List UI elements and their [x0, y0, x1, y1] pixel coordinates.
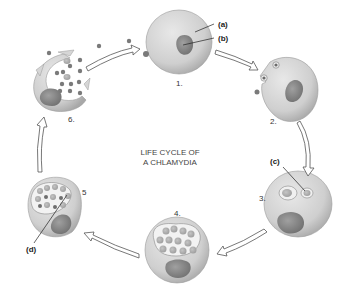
stage-1-cell: 1. — [143, 10, 212, 88]
elementary-body — [274, 63, 277, 66]
stage-label-5: 5 — [82, 188, 87, 197]
stage-label-1: 1. — [176, 79, 183, 88]
arrow-5-to-6 — [37, 117, 47, 172]
callout-a: (a) — [218, 20, 228, 29]
callout-c: (c) — [270, 157, 280, 166]
callout-d: (d) — [26, 245, 37, 254]
stage-4-cell: 4. — [145, 209, 209, 283]
diagram-title-line-2: A CHLAMYDIA — [143, 158, 197, 167]
diagram-title-line-1: LIFE CYCLE OF — [140, 148, 199, 157]
arrow-4-to-5 — [84, 232, 139, 258]
stage-5-cell: 5 — [28, 177, 87, 237]
stage-label-6: 6. — [68, 115, 75, 124]
callout-b: (b) — [218, 34, 229, 43]
stage-label-4: 4. — [174, 209, 181, 218]
arrow-3-to-4 — [217, 229, 267, 256]
chlamydia-life-cycle-diagram: 1. (a) (b) 2. 3. (c) — [0, 0, 341, 300]
arrow-1-to-2 — [215, 50, 258, 70]
stage-label-3: 3. — [259, 194, 266, 203]
arrow-6-to-1 — [86, 45, 140, 71]
stage-2-cell: 2. — [255, 57, 319, 126]
elementary-body — [255, 90, 260, 95]
elementary-body — [262, 76, 265, 79]
arrow-2-to-3 — [297, 121, 314, 176]
elementary-body — [143, 51, 149, 57]
stage-label-2: 2. — [270, 117, 277, 126]
stage-6-cell: 6. — [34, 39, 132, 124]
